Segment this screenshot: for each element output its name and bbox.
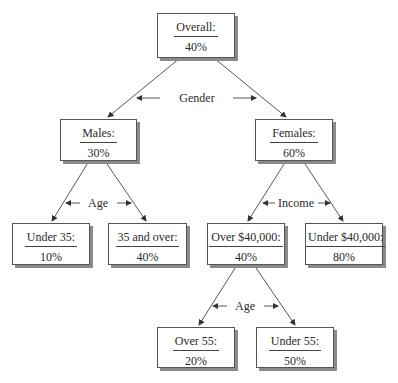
node-value: 40% [208, 251, 284, 263]
node-title: Under $40,000: [306, 231, 385, 247]
node-females: Females: 60% [255, 119, 333, 161]
node-value: 40% [109, 251, 186, 263]
split-label-age-males: Age [85, 196, 111, 211]
node-under-40000: Under $40,000: 80% [305, 223, 383, 265]
node-title: Under 35: [25, 231, 77, 247]
node-value: 30% [61, 147, 136, 159]
node-value: 20% [158, 355, 234, 367]
node-title: Males: [80, 127, 117, 143]
node-title: Under 55: [269, 335, 321, 351]
node-title: 35 and over: [116, 231, 180, 247]
node-under-35: Under 35: 10% [12, 223, 90, 265]
split-label-age-income: Age [232, 299, 258, 314]
node-value: 40% [158, 41, 234, 53]
node-35-and-over: 35 and over: 40% [108, 223, 187, 265]
node-value: 80% [306, 251, 382, 263]
node-title: Females: [270, 127, 317, 143]
split-label-gender: Gender [176, 91, 217, 106]
node-overall: Overall: 40% [157, 13, 235, 58]
node-males: Males: 30% [60, 119, 137, 161]
node-title: Overall: [174, 21, 217, 37]
node-over-55: Over 55: 20% [157, 327, 235, 368]
node-value: 60% [256, 147, 332, 159]
node-value: 10% [13, 251, 89, 263]
node-under-55: Under 55: 50% [256, 327, 334, 368]
node-title: Over $40,000: [209, 231, 282, 247]
split-label-income: Income [275, 196, 317, 211]
node-value: 50% [257, 355, 333, 367]
node-over-40000: Over $40,000: 40% [207, 223, 285, 265]
node-title: Over 55: [173, 335, 219, 351]
